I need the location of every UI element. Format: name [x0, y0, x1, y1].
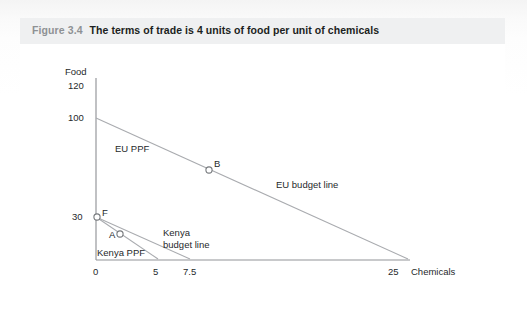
- x-tick-5: 5: [153, 266, 158, 278]
- data-point-f-marker: [94, 214, 100, 220]
- data-point-b-label: B: [214, 158, 220, 170]
- y-tick-100: 100: [68, 112, 84, 124]
- figure-container: Figure 3.4The terms of trade is 4 units …: [0, 0, 527, 316]
- chart-graphic: [20, 44, 505, 296]
- kenya-budget-line-label-2: budget line: [163, 239, 209, 251]
- y-tick-120: 120: [68, 80, 84, 92]
- data-point-f-label: F: [102, 207, 108, 219]
- data-point-a-marker: [117, 231, 123, 237]
- y-tick-30: 30: [72, 211, 83, 223]
- x-axis-title: Chemicals: [411, 266, 455, 278]
- kenya-budget-line-label-1: Kenya: [163, 227, 190, 239]
- data-point-b-marker: [206, 167, 212, 173]
- y-axis-title: Food: [65, 66, 87, 78]
- x-tick-25: 25: [388, 266, 399, 278]
- plot-canvas: Food 120 100 30 0 5 7.5 25 Chemicals F A…: [20, 44, 505, 296]
- x-tick-0: 0: [93, 266, 98, 278]
- eu-budget-line-label: EU budget line: [276, 179, 338, 191]
- x-tick-7-5: 7.5: [183, 266, 196, 278]
- figure-title: The terms of trade is 4 units of food pe…: [90, 24, 379, 36]
- kenya-ppf-label: Kenya PPF: [97, 247, 145, 259]
- figure-number: Figure 3.4: [32, 24, 83, 36]
- figure-caption: Figure 3.4The terms of trade is 4 units …: [32, 23, 492, 37]
- eu-ppf-label: EU PPF: [115, 143, 149, 155]
- data-point-a-label: A: [109, 229, 115, 241]
